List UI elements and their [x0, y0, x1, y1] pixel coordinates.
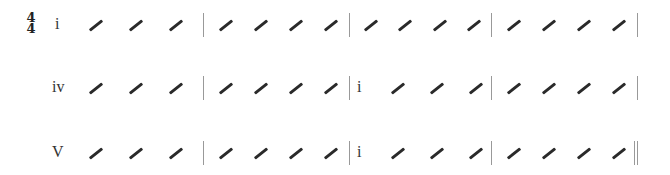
beat-slash	[542, 19, 556, 31]
chord-symbol: V	[52, 144, 64, 160]
beat-slash	[364, 19, 378, 31]
beat-slash	[324, 82, 338, 94]
beat-slash	[577, 19, 591, 31]
barline	[349, 13, 350, 37]
beat-slash	[577, 147, 591, 159]
beat-slash	[218, 147, 232, 159]
chord-symbol: i	[357, 79, 361, 95]
time-signature: 4 4	[25, 12, 37, 34]
beat-slash	[89, 19, 103, 31]
beat-slash	[324, 19, 338, 31]
barline	[203, 76, 204, 100]
beat-slash	[506, 147, 520, 159]
beat-slash	[169, 147, 183, 159]
beat-slash	[254, 82, 268, 94]
beat-slash	[612, 19, 626, 31]
beat-slash	[169, 19, 183, 31]
final-barline	[634, 141, 635, 165]
beat-slash	[429, 82, 443, 94]
barline	[491, 13, 492, 37]
barline	[637, 13, 638, 37]
time-signature-bottom: 4	[25, 23, 37, 34]
beat-slash	[467, 19, 481, 31]
beat-slash	[432, 19, 446, 31]
beat-slash	[542, 82, 556, 94]
beat-slash	[89, 147, 103, 159]
beat-slash	[577, 82, 591, 94]
beat-slash	[129, 19, 143, 31]
beat-slash	[254, 147, 268, 159]
beat-slash	[468, 147, 482, 159]
beat-slash	[506, 19, 520, 31]
beat-slash	[398, 19, 412, 31]
barline	[203, 141, 204, 165]
chord-symbol: i	[357, 144, 361, 160]
beat-slash	[390, 82, 404, 94]
beat-slash	[324, 147, 338, 159]
beat-slash	[612, 82, 626, 94]
barline	[637, 76, 638, 100]
chord-symbol: i	[55, 16, 59, 32]
final-barline	[637, 141, 638, 165]
barline	[349, 76, 350, 100]
beat-slash	[129, 82, 143, 94]
beat-slash	[542, 147, 556, 159]
beat-slash	[218, 82, 232, 94]
beat-slash	[129, 147, 143, 159]
chord-symbol: iv	[52, 79, 64, 95]
beat-slash	[289, 19, 303, 31]
barline	[491, 141, 492, 165]
beat-slash	[506, 82, 520, 94]
beat-slash	[429, 147, 443, 159]
beat-slash	[89, 82, 103, 94]
beat-slash	[169, 82, 183, 94]
beat-slash	[468, 82, 482, 94]
barline	[491, 76, 492, 100]
beat-slash	[289, 82, 303, 94]
barline	[349, 141, 350, 165]
beat-slash	[218, 19, 232, 31]
beat-slash	[289, 147, 303, 159]
barline	[203, 13, 204, 37]
beat-slash	[390, 147, 404, 159]
beat-slash	[612, 147, 626, 159]
beat-slash	[254, 19, 268, 31]
